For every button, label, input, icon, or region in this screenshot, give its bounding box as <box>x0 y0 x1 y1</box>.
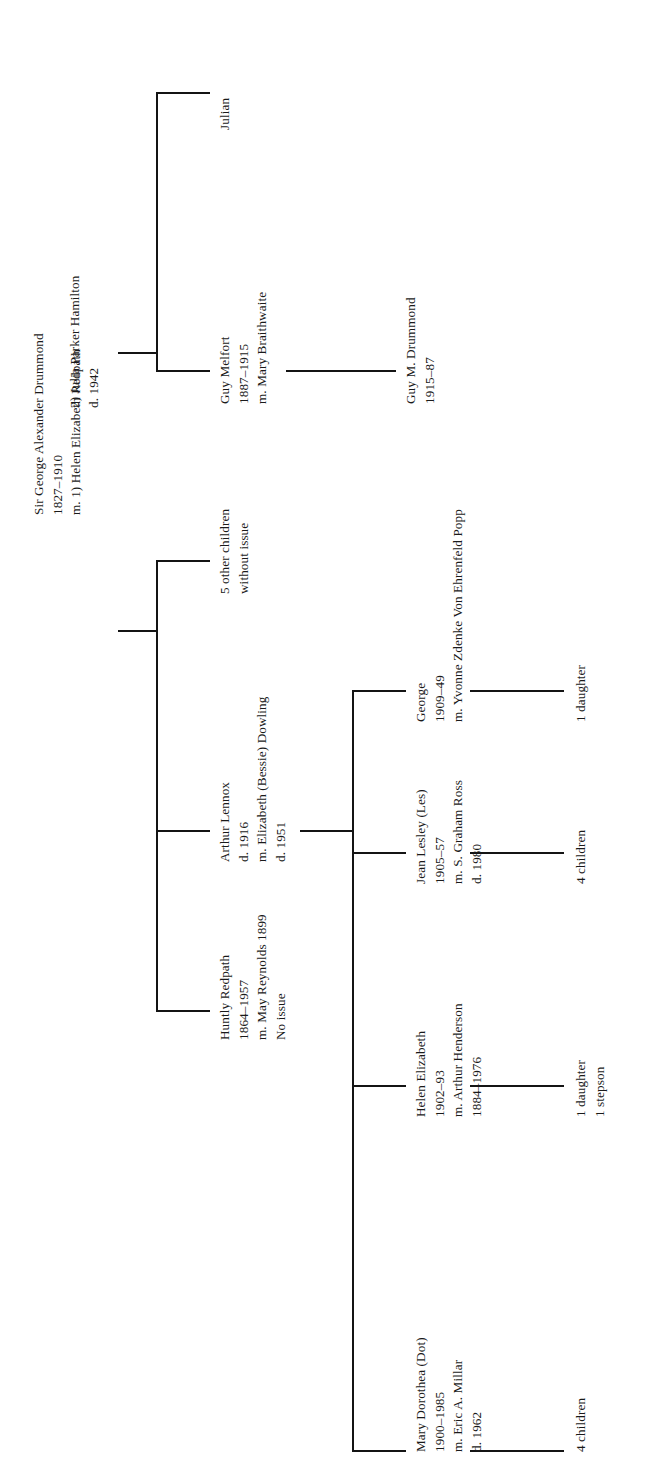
person-julian: Julian <box>216 98 235 130</box>
guy-m-drummond-name: Guy M. Drummond <box>402 297 421 404</box>
george-spouse: m. Yvonne Zdenke Von Ehrenfeld Popp <box>449 509 468 722</box>
helen-elizabeth-spouse: m. Arthur Henderson <box>449 1003 468 1117</box>
huntly-redpath-spouse: m. May Reynolds 1899 <box>253 914 272 1040</box>
person-mary-dorothea: Mary Dorothea (Dot) 1900–1985 m. Eric A.… <box>412 1337 487 1452</box>
person-helen-elizabeth: Helen Elizabeth 1902–93 m. Arthur Hender… <box>412 1003 487 1117</box>
issue-jean-lesley: 4 children <box>572 830 591 884</box>
person-jean-lesley: Jean Lesley (Les) 1905–57 m. S. Graham R… <box>412 780 487 884</box>
connector-to-arthur-lennox <box>156 830 210 832</box>
node-other-children: 5 other children without issue <box>216 509 253 594</box>
connector-to-guy-melfort <box>156 370 210 372</box>
jean-lesley-dates: 1905–57 <box>431 780 450 884</box>
arthur-lennox-spouse: m. Elizabeth (Bessie) Dowling <box>253 696 272 862</box>
issue-mary-dorothea: 4 children <box>572 1398 591 1452</box>
connector-gen2-m2-bracket <box>156 92 158 372</box>
huntly-redpath-dates: 1864–1957 <box>235 914 254 1040</box>
connector-george-issue <box>470 690 564 692</box>
other-children-line1: 5 other children <box>216 509 235 594</box>
connector-to-helen-elizabeth <box>352 1085 406 1087</box>
guy-melfort-spouse: m. Mary Braithwaite <box>253 292 272 404</box>
arthur-lennox-spouse-dates: d. 1951 <box>272 696 291 862</box>
guy-melfort-name: Guy Melfort <box>216 292 235 404</box>
connector-to-other-children <box>156 560 210 562</box>
mary-dorothea-spouse-dates: d. 1962 <box>468 1337 487 1452</box>
huntly-redpath-name: Huntly Redpath <box>216 914 235 1040</box>
helen-elizabeth-dates: 1902–93 <box>431 1003 450 1117</box>
issue-george: 1 daughter <box>572 665 591 722</box>
person-arthur-lennox: Arthur Lennox d. 1916 m. Elizabeth (Bess… <box>216 696 291 862</box>
jean-lesley-issue: 4 children <box>572 830 591 884</box>
arthur-lennox-dates: d. 1916 <box>235 696 254 862</box>
person-guy-m-drummond: Guy M. Drummond 1915–87 <box>402 297 439 404</box>
person-huntly-redpath: Huntly Redpath 1864–1957 m. May Reynolds… <box>216 914 291 1040</box>
marriage2-dates: d. 1942 <box>85 276 104 408</box>
julian-name: Julian <box>216 98 235 130</box>
person-guy-melfort: Guy Melfort 1887–1915 m. Mary Braithwait… <box>216 292 272 404</box>
connector-gen3-bracket <box>352 690 354 1452</box>
mary-dorothea-dates: 1900–1985 <box>431 1337 450 1452</box>
genealogy-chart-page: Sir George Alexander Drummond 1827–1910 … <box>0 0 656 1481</box>
george-name: George <box>412 509 431 722</box>
huntly-redpath-issue: No issue <box>272 914 291 1040</box>
arthur-lennox-name: Arthur Lennox <box>216 696 235 862</box>
issue-helen-elizabeth: 1 daughter 1 stepson <box>572 1060 609 1117</box>
root-dates: 1827–1910 <box>49 333 68 515</box>
mary-dorothea-issue: 4 children <box>572 1398 591 1452</box>
connector-guy-melfort-to-son <box>286 370 396 372</box>
guy-m-drummond-dates: 1915–87 <box>421 297 440 404</box>
root-name: Sir George Alexander Drummond <box>30 333 49 515</box>
other-children-line2: without issue <box>235 509 254 594</box>
helen-elizabeth-issue2: 1 stepson <box>591 1060 610 1117</box>
jean-lesley-spouse-dates: d. 1980 <box>468 780 487 884</box>
helen-elizabeth-spouse-dates: 1884–1976 <box>468 1003 487 1117</box>
jean-lesley-spouse: m. S. Graham Ross <box>449 780 468 884</box>
helen-elizabeth-name: Helen Elizabeth <box>412 1003 431 1117</box>
connector-root-m1-stem <box>118 630 158 632</box>
connector-to-mary-dorothea <box>352 1450 406 1452</box>
mary-dorothea-spouse: m. Eric A. Millar <box>449 1337 468 1452</box>
connector-to-george <box>352 690 406 692</box>
connector-arthur-stem <box>300 830 354 832</box>
connector-to-huntly-redpath <box>156 1010 210 1012</box>
root-marriage2-label: 2) Julia Parker Hamilton d. 1942 <box>66 276 103 408</box>
george-dates: 1909–49 <box>431 509 450 722</box>
connector-to-julian <box>156 92 210 94</box>
person-george: George 1909–49 m. Yvonne Zdenke Von Ehre… <box>412 509 468 722</box>
mary-dorothea-name: Mary Dorothea (Dot) <box>412 1337 431 1452</box>
george-issue: 1 daughter <box>572 665 591 722</box>
guy-melfort-dates: 1887–1915 <box>235 292 254 404</box>
connector-gen2-m1-bracket <box>156 560 158 1012</box>
jean-lesley-name: Jean Lesley (Les) <box>412 780 431 884</box>
connector-root-m2-stem <box>118 352 158 354</box>
marriage2-name: 2) Julia Parker Hamilton <box>66 276 85 408</box>
helen-elizabeth-issue1: 1 daughter <box>572 1060 591 1117</box>
connector-to-jean-lesley <box>352 852 406 854</box>
